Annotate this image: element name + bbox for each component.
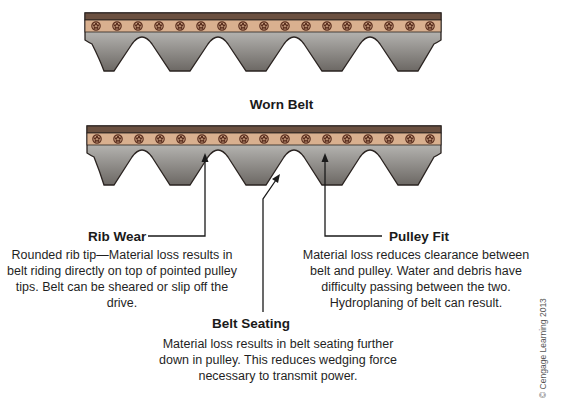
new-belt [85, 13, 441, 71]
worn-belt-title: Worn Belt [0, 97, 563, 112]
pulley-fit-description: Material loss reduces clearance between … [300, 247, 532, 311]
belt-backing [85, 13, 441, 20]
belt-seating-arrowhead-icon [272, 174, 280, 183]
belt-seating-heading: Belt Seating [212, 316, 290, 331]
belt-seating-leader [263, 180, 276, 312]
worn-belt [87, 126, 441, 185]
rib-wear-heading: Rib Wear [88, 229, 146, 244]
worn-belt-backing [87, 126, 441, 133]
pulley-fit-heading: Pulley Fit [389, 229, 449, 244]
belt-seating-description: Material loss results in belt seating fu… [158, 336, 398, 384]
copyright-credit: © Cengage Learning 2013 [538, 298, 548, 398]
rib-wear-description: Rounded rib tip—Material loss results in… [0, 247, 244, 311]
